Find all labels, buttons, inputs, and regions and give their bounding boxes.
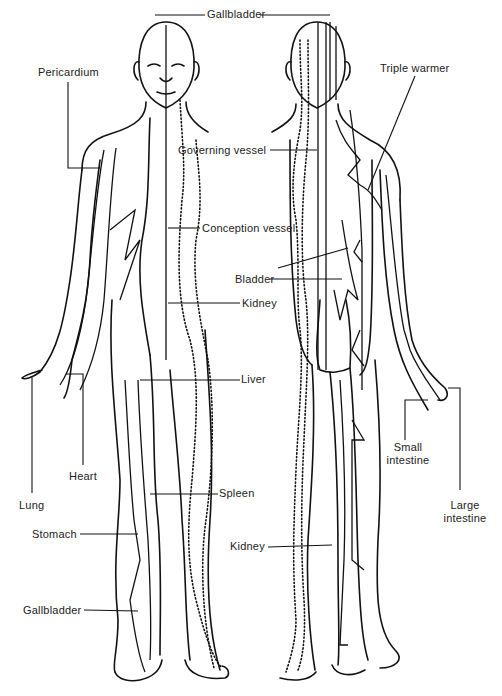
label-kidney-front: Kidney — [242, 297, 277, 310]
label-kidney-back: Kidney — [230, 540, 265, 553]
label-small-intestine: Small intestine — [386, 441, 430, 467]
label-gallbladder-leg: Gallbladder — [23, 604, 81, 617]
label-stomach: Stomach — [32, 528, 77, 541]
label-heart: Heart — [69, 470, 97, 483]
label-gallbladder-head: Gallbladder — [207, 8, 265, 21]
label-bladder: Bladder — [235, 273, 274, 286]
label-spleen: Spleen — [219, 487, 254, 500]
label-pericardium: Pericardium — [38, 66, 99, 79]
front-figure — [22, 22, 228, 681]
label-governing-vessel: Governing vessel — [178, 144, 266, 157]
meridian-diagram: Gallbladder Pericardium Triple warmer Go… — [0, 0, 502, 696]
back-figure — [272, 22, 447, 680]
label-lung: Lung — [19, 499, 44, 512]
label-conception-vessel: Conception vessel — [202, 222, 295, 235]
label-liver: Liver — [241, 373, 266, 386]
label-large-intestine: Large intestine — [442, 499, 488, 525]
body-outline-drawing — [0, 0, 502, 696]
leader-lines — [32, 15, 460, 611]
label-triple-warmer: Triple warmer — [380, 62, 449, 75]
